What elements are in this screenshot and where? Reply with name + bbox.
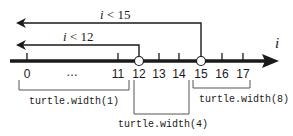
bracket: [193, 80, 250, 88]
range-bracket-width-8: turtle.width(8): [193, 80, 289, 105]
range-label: turtle.width(1): [29, 96, 119, 107]
condition-label: i < 12: [63, 29, 93, 44]
axis-tick-label: 12: [132, 67, 146, 81]
open-point-15: [197, 57, 206, 66]
arrow-line: [22, 23, 201, 61]
open-point-12: [135, 57, 144, 66]
bracket: [134, 80, 189, 114]
axis-tick-label: 13: [152, 67, 166, 81]
axis-tick-label: 11: [112, 67, 125, 81]
range-label: turtle.width(4): [118, 119, 208, 130]
axis-tick-label: …: [66, 65, 78, 79]
condition-arrow-lt-12: i < 12: [16, 29, 139, 61]
axis-tick-labels: 0…11121314151617: [24, 65, 250, 81]
axis-tick-label: 14: [172, 67, 186, 81]
axis-tick-label: 17: [236, 67, 250, 81]
range-bracket-width-1: turtle.width(1): [19, 80, 129, 107]
number-line-diagram: i < 15 i < 12 i 0…11121314151617 turtle.…: [0, 0, 293, 136]
condition-label: i < 15: [100, 7, 130, 22]
number-axis: i 0…11121314151617: [10, 35, 279, 81]
axis-label: i: [275, 35, 279, 51]
bracket: [19, 80, 129, 90]
axis-tick-label: 0: [24, 67, 31, 81]
axis-tick-label: 16: [215, 67, 229, 81]
range-label: turtle.width(8): [199, 94, 289, 105]
arrow-line: [22, 45, 139, 61]
axis-tick-label: 15: [194, 67, 208, 81]
condition-arrow-lt-15: i < 15: [16, 7, 201, 61]
